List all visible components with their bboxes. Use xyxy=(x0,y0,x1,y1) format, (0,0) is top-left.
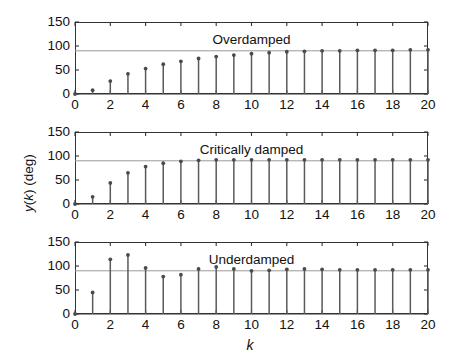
y-tick-label: 100 xyxy=(38,149,70,163)
stem-marker xyxy=(161,62,165,66)
stem-marker xyxy=(267,158,271,162)
stem-marker xyxy=(356,158,360,162)
stem-marker xyxy=(144,165,148,169)
y-axis-label-index: k xyxy=(21,194,36,201)
x-tick-label: 0 xyxy=(60,208,90,222)
x-tick-label: 10 xyxy=(237,208,267,222)
x-tick-label: 12 xyxy=(272,98,302,112)
x-tick-label: 2 xyxy=(95,98,125,112)
stem-marker xyxy=(197,267,201,271)
stem-marker xyxy=(338,158,342,162)
subplot-annotation: Critically damped xyxy=(200,143,304,157)
x-tick-label: 20 xyxy=(413,98,443,112)
stem-marker xyxy=(250,269,254,273)
stem-marker xyxy=(373,268,377,272)
stem-marker xyxy=(285,50,289,54)
x-tick-label: 20 xyxy=(413,318,443,332)
stem-marker xyxy=(144,266,148,270)
stem-marker xyxy=(303,49,307,53)
x-tick-label: 8 xyxy=(201,208,231,222)
stem-marker xyxy=(144,67,148,71)
stem-marker xyxy=(232,158,236,162)
stem-marker xyxy=(197,158,201,162)
stem-marker xyxy=(320,49,324,53)
stem-marker xyxy=(161,275,165,279)
x-tick-label: 0 xyxy=(60,98,90,112)
stem-marker xyxy=(250,158,254,162)
y-axis-label: y(k) (deg) xyxy=(22,154,36,212)
stem-marker xyxy=(426,48,430,52)
x-tick-label: 4 xyxy=(131,98,161,112)
x-tick-label: 0 xyxy=(60,318,90,332)
stem-marker xyxy=(338,49,342,53)
x-tick-label: 4 xyxy=(131,208,161,222)
x-tick-label: 18 xyxy=(378,98,408,112)
stem-marker xyxy=(320,158,324,162)
x-tick-label: 6 xyxy=(166,98,196,112)
stem-marker xyxy=(73,312,77,316)
x-tick-label: 16 xyxy=(342,208,372,222)
stem-marker xyxy=(73,202,77,206)
y-tick-label: 50 xyxy=(38,283,70,297)
stem-marker xyxy=(426,158,430,162)
x-tick-label: 14 xyxy=(307,318,337,332)
x-tick-label: 8 xyxy=(201,98,231,112)
stem-marker xyxy=(391,48,395,52)
x-tick-label: 12 xyxy=(272,318,302,332)
y-tick-label: 150 xyxy=(38,15,70,29)
stem-marker xyxy=(267,51,271,55)
stem-marker xyxy=(179,59,183,63)
x-tick-label: 16 xyxy=(342,98,372,112)
stem-marker xyxy=(408,268,412,272)
x-tick-label: 18 xyxy=(378,318,408,332)
stem-marker xyxy=(232,267,236,271)
stem-marker xyxy=(214,158,218,162)
y-axis-label-units: ( xyxy=(21,201,36,206)
stem-marker xyxy=(267,268,271,272)
subplot-annotation: Underdamped xyxy=(209,253,295,267)
stem-marker xyxy=(108,181,112,185)
stem-marker xyxy=(197,57,201,61)
x-tick-label: 2 xyxy=(95,318,125,332)
stem-marker xyxy=(303,158,307,162)
stem-marker xyxy=(408,158,412,162)
stem-marker xyxy=(108,257,112,261)
x-tick-label: 6 xyxy=(166,208,196,222)
stem-marker xyxy=(356,268,360,272)
x-axis-label: k xyxy=(247,338,254,352)
stem-marker xyxy=(179,159,183,163)
subplot-annotation: Overdamped xyxy=(212,33,290,47)
x-tick-label: 20 xyxy=(413,208,443,222)
stem-marker xyxy=(285,158,289,162)
stem-marker xyxy=(373,158,377,162)
x-tick-label: 10 xyxy=(237,98,267,112)
stem-marker xyxy=(108,79,112,83)
stem-marker xyxy=(285,267,289,271)
y-tick-label: 100 xyxy=(38,259,70,273)
x-tick-label: 8 xyxy=(201,318,231,332)
x-tick-label: 10 xyxy=(237,318,267,332)
stem-marker xyxy=(91,195,95,199)
y-axis-label-tail: ) (deg) xyxy=(21,154,36,194)
stem-marker xyxy=(303,267,307,271)
x-tick-label: 6 xyxy=(166,318,196,332)
stem-marker xyxy=(338,268,342,272)
stem-marker xyxy=(250,52,254,56)
stem-marker xyxy=(391,158,395,162)
stem-marker xyxy=(426,268,430,272)
stem-marker xyxy=(126,171,130,175)
y-tick-label: 50 xyxy=(38,173,70,187)
y-tick-label: 150 xyxy=(38,235,70,249)
stem-marker xyxy=(214,55,218,59)
stem-marker xyxy=(391,268,395,272)
x-tick-label: 2 xyxy=(95,208,125,222)
stem-marker xyxy=(91,88,95,92)
stem-marker xyxy=(126,72,130,76)
stem-marker xyxy=(373,48,377,52)
stem-marker xyxy=(179,273,183,277)
y-axis-label-symbol: y xyxy=(21,205,36,212)
stem-marker xyxy=(356,48,360,52)
stem-marker xyxy=(91,291,95,295)
x-tick-label: 4 xyxy=(131,318,161,332)
